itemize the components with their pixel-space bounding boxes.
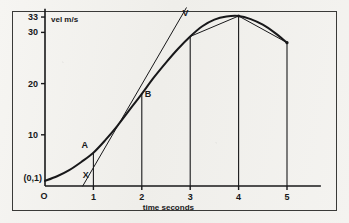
- peak-marker: [237, 14, 240, 17]
- x-tick-label-1: 1: [91, 193, 96, 202]
- y-tick-label-10: 10: [28, 131, 38, 140]
- y-tick-label-33: 33: [28, 13, 38, 22]
- x-tick-label-2: 2: [139, 193, 144, 202]
- series-chord-4-to-5: [239, 16, 287, 43]
- series-velocity-curve: [45, 16, 287, 181]
- x-tick-label-5: 5: [284, 193, 289, 202]
- y-axis-label: vel m/s: [51, 16, 78, 24]
- endpoint-marker: [285, 41, 288, 44]
- plot-canvas: [0, 0, 349, 223]
- annotation-point-a: A: [81, 141, 88, 150]
- series-tangent-line-XV: [83, 8, 187, 186]
- annotation-tangent-foot: X: [83, 171, 89, 180]
- y-intercept-label: (0,1): [23, 174, 42, 183]
- annotation-tangent-head: V: [182, 9, 188, 18]
- x-tick-label-3: 3: [188, 193, 193, 202]
- velocity-time-graph-figure: 3330201012345vel m/stime seconds(0,1)OAB…: [0, 0, 349, 223]
- annotation-point-b: B: [145, 90, 152, 99]
- x-axis-label: time seconds: [143, 204, 194, 212]
- y-tick-label-20: 20: [28, 80, 38, 89]
- y-tick-label-30: 30: [28, 28, 38, 37]
- origin-label: O: [40, 192, 47, 201]
- x-tick-label-4: 4: [236, 193, 241, 202]
